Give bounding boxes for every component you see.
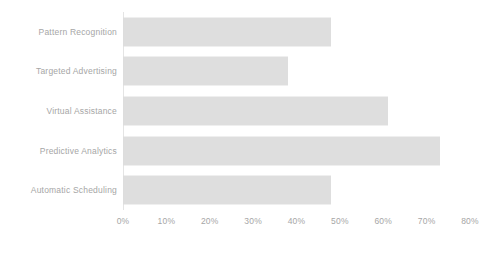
bar[interactable] [123, 57, 288, 86]
x-tick-label: 0% [117, 216, 130, 226]
category-label: Pattern Recognition [0, 27, 117, 37]
x-tick-label: 80% [461, 216, 479, 226]
x-tick-label: 60% [374, 216, 392, 226]
plot-area [123, 12, 470, 210]
x-tick-label: 40% [288, 216, 306, 226]
bar[interactable] [123, 176, 331, 205]
category-axis: Pattern RecognitionTargeted AdvertisingV… [0, 12, 117, 210]
bar-fill [123, 17, 331, 46]
category-label: Targeted Advertising [0, 66, 117, 76]
category-label: Predictive Analytics [0, 146, 117, 156]
bar-fill [123, 97, 388, 126]
value-axis-ticks: 0%10%20%30%40%50%60%70%80% [0, 216, 502, 236]
x-tick-label: 30% [244, 216, 262, 226]
x-tick-label: 50% [331, 216, 349, 226]
bar[interactable] [123, 17, 331, 46]
bar-chart: Pattern RecognitionTargeted AdvertisingV… [0, 0, 502, 257]
bar[interactable] [123, 136, 440, 165]
x-tick-label: 70% [418, 216, 436, 226]
x-tick-label: 20% [201, 216, 219, 226]
category-label: Automatic Scheduling [0, 185, 117, 195]
bar[interactable] [123, 97, 388, 126]
bar-fill [123, 176, 331, 205]
category-label: Virtual Assistance [0, 106, 117, 116]
x-tick-label: 10% [158, 216, 176, 226]
bar-fill [123, 57, 288, 86]
bar-fill [123, 136, 440, 165]
